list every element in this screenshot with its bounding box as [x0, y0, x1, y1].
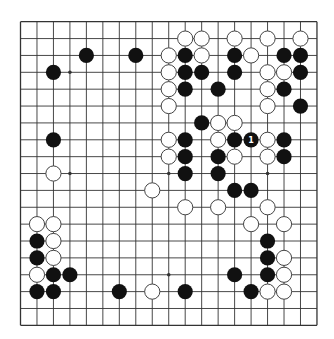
white-stone[interactable]	[46, 217, 61, 232]
black-stone[interactable]	[178, 149, 193, 164]
white-stone[interactable]	[46, 250, 61, 265]
star-point-icon	[68, 71, 72, 75]
white-stone[interactable]	[260, 31, 275, 46]
white-stone[interactable]	[227, 115, 242, 130]
white-stone[interactable]	[178, 31, 193, 46]
black-stone[interactable]	[178, 132, 193, 147]
black-stone[interactable]	[62, 267, 77, 282]
white-stone[interactable]	[276, 65, 291, 80]
star-point-icon	[167, 172, 171, 176]
black-stone[interactable]	[112, 284, 127, 299]
white-stone[interactable]	[211, 132, 226, 147]
black-stone[interactable]	[46, 132, 61, 147]
black-stone[interactable]	[178, 65, 193, 80]
white-stone[interactable]	[29, 267, 44, 282]
white-stone[interactable]	[211, 200, 226, 215]
white-stone[interactable]	[145, 183, 160, 198]
black-stone[interactable]	[178, 166, 193, 181]
black-stone[interactable]	[260, 267, 275, 282]
white-stone[interactable]	[276, 267, 291, 282]
white-stone[interactable]	[260, 65, 275, 80]
black-stone[interactable]	[178, 82, 193, 97]
black-stone[interactable]	[276, 82, 291, 97]
black-stone[interactable]	[227, 132, 242, 147]
black-stone[interactable]	[227, 48, 242, 63]
black-stone[interactable]	[211, 82, 226, 97]
black-stone[interactable]	[79, 48, 94, 63]
white-stone[interactable]	[161, 149, 176, 164]
black-stone[interactable]	[276, 132, 291, 147]
black-stone[interactable]	[276, 48, 291, 63]
black-stone[interactable]	[227, 183, 242, 198]
go-board[interactable]: 1	[0, 0, 334, 339]
white-stone[interactable]	[293, 31, 308, 46]
black-stone[interactable]	[29, 250, 44, 265]
white-stone[interactable]	[260, 98, 275, 113]
black-stone[interactable]	[128, 48, 143, 63]
star-point-icon	[266, 172, 270, 176]
white-stone[interactable]	[161, 48, 176, 63]
black-stone[interactable]	[227, 65, 242, 80]
black-stone[interactable]	[227, 267, 242, 282]
black-stone[interactable]	[46, 284, 61, 299]
black-stone[interactable]	[211, 166, 226, 181]
star-point-icon	[167, 273, 171, 277]
black-stone[interactable]	[29, 233, 44, 248]
white-stone[interactable]	[227, 31, 242, 46]
white-stone[interactable]	[276, 284, 291, 299]
black-stone[interactable]	[178, 284, 193, 299]
black-stone[interactable]	[46, 65, 61, 80]
black-stone[interactable]	[178, 48, 193, 63]
black-stone[interactable]	[194, 115, 209, 130]
white-stone[interactable]	[211, 115, 226, 130]
star-point-icon	[68, 172, 72, 176]
white-stone[interactable]	[260, 284, 275, 299]
white-stone[interactable]	[161, 132, 176, 147]
black-stone[interactable]	[243, 284, 258, 299]
white-stone[interactable]	[46, 233, 61, 248]
black-stone[interactable]	[243, 183, 258, 198]
white-stone[interactable]	[194, 31, 209, 46]
black-stone[interactable]	[194, 65, 209, 80]
white-stone[interactable]	[227, 149, 242, 164]
white-stone[interactable]	[161, 82, 176, 97]
white-stone[interactable]	[178, 200, 193, 215]
white-stone[interactable]	[243, 217, 258, 232]
white-stone[interactable]	[161, 98, 176, 113]
white-stone[interactable]	[161, 65, 176, 80]
black-stone[interactable]	[46, 267, 61, 282]
black-stone[interactable]	[260, 233, 275, 248]
white-stone[interactable]	[260, 132, 275, 147]
black-stone[interactable]	[293, 98, 308, 113]
white-stone[interactable]	[260, 82, 275, 97]
white-stone[interactable]	[29, 217, 44, 232]
white-stone[interactable]	[145, 284, 160, 299]
white-stone[interactable]	[243, 48, 258, 63]
black-stone[interactable]	[293, 65, 308, 80]
white-stone[interactable]	[276, 217, 291, 232]
black-stone[interactable]	[260, 250, 275, 265]
white-stone[interactable]	[46, 166, 61, 181]
black-stone[interactable]	[293, 48, 308, 63]
black-stone[interactable]	[211, 149, 226, 164]
white-stone[interactable]	[194, 48, 209, 63]
white-stone[interactable]	[260, 149, 275, 164]
stone-move-label: 1	[248, 136, 254, 145]
white-stone[interactable]	[276, 250, 291, 265]
black-stone[interactable]	[276, 149, 291, 164]
black-stone[interactable]	[29, 284, 44, 299]
white-stone[interactable]	[260, 200, 275, 215]
